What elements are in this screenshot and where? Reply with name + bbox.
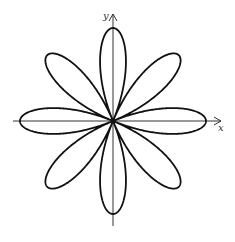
- x-axis-label: x: [218, 122, 224, 133]
- y-axis-label: y: [102, 10, 109, 21]
- polar-rose-plot: x y: [0, 0, 235, 242]
